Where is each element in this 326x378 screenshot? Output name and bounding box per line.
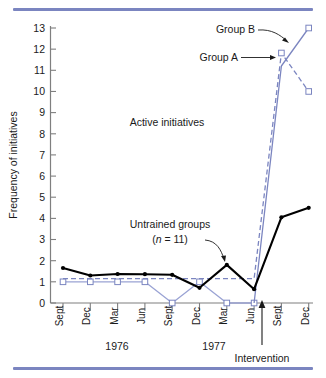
annotation-group-b-leader (258, 30, 287, 41)
annotation-untrained-value: = 11) (161, 233, 187, 245)
marker-untrained-6 (225, 263, 229, 267)
marker-group-b-dec (306, 25, 312, 31)
intervention-arrow-head (259, 300, 266, 308)
series-group-b (254, 25, 311, 303)
annotation-untrained-arrowhead (221, 256, 226, 263)
marker-trained-1 (88, 279, 94, 285)
marker-trained-3 (142, 279, 148, 285)
marker-group-a-sept (279, 50, 285, 56)
intervention-label: Intervention (235, 352, 290, 364)
y-label-8: 8 (39, 128, 45, 140)
x-label-4: Sept (163, 305, 174, 326)
x-axis: Sept Dec Mar Jun Sept Dec Mar Jun Sept D… (51, 303, 314, 352)
marker-trained-5 (197, 279, 203, 285)
series-trained-blue (60, 279, 257, 306)
y-label-2: 2 (39, 255, 45, 267)
series-group-b-line (254, 28, 309, 303)
annotation-untrained-line1: Untrained groups (130, 218, 211, 230)
x-label-7: Jun (245, 308, 256, 324)
x-label-6: Mar (218, 307, 229, 325)
x-label-3: Jun (136, 308, 147, 324)
marker-untrained-0 (61, 266, 65, 270)
y-label-10: 10 (33, 85, 45, 97)
x-label-0: Sept (54, 305, 65, 326)
annotation-untrained-line2: (n = 11) (152, 233, 188, 245)
marker-untrained-9 (307, 206, 311, 210)
marker-untrained-8 (279, 215, 283, 219)
x-label-2: Mar (109, 307, 120, 325)
marker-untrained-2 (116, 272, 120, 276)
marker-trained-4 (169, 300, 175, 306)
marker-untrained-4 (170, 273, 174, 277)
annotation-group-a-arrowhead (270, 55, 276, 60)
marker-untrained-7 (252, 287, 256, 291)
y-label-12: 12 (33, 43, 45, 55)
marker-trained-6 (224, 300, 230, 306)
annotation-group-b-label: Group B (216, 23, 255, 35)
annotation-untrained: Untrained groups (n = 11) (130, 218, 226, 262)
annotation-group-b: Group B (216, 23, 289, 43)
y-label-13: 13 (33, 22, 45, 34)
y-label-9: 9 (39, 106, 45, 118)
x-label-5: Dec (191, 307, 202, 325)
plot-title: Active initiatives (130, 116, 205, 128)
annotation-group-a: Group A (199, 51, 276, 63)
x-label-1: Dec (81, 307, 92, 325)
y-label-4: 4 (39, 212, 45, 224)
marker-untrained-1 (88, 273, 92, 277)
year-label-1976: 1976 (105, 340, 129, 352)
x-label-8: Sept (272, 305, 283, 326)
x-label-9: Dec (300, 307, 311, 325)
y-label-0: 0 (39, 297, 45, 309)
y-axis: 13 12 11 10 9 8 7 6 5 4 3 2 1 0 Frequenc… (7, 22, 56, 309)
y-axis-title: Frequency of initiatives (7, 111, 19, 218)
y-label-1: 1 (39, 276, 45, 288)
annotation-group-a-label: Group A (199, 51, 238, 63)
marker-group-a-dec (306, 89, 312, 95)
marker-untrained-3 (143, 272, 147, 276)
year-label-1977: 1977 (202, 340, 226, 352)
figure-container: 13 12 11 10 9 8 7 6 5 4 3 2 1 0 Frequenc… (0, 0, 326, 378)
y-label-7: 7 (39, 149, 45, 161)
marker-trained-2 (115, 279, 121, 285)
y-label-6: 6 (39, 170, 45, 182)
marker-untrained-5 (197, 286, 201, 290)
marker-trained-0 (60, 279, 66, 285)
y-label-3: 3 (39, 233, 45, 245)
y-label-11: 11 (34, 64, 45, 76)
chart-svg: 13 12 11 10 9 8 7 6 5 4 3 2 1 0 Frequenc… (0, 0, 326, 378)
y-label-5: 5 (39, 191, 45, 203)
